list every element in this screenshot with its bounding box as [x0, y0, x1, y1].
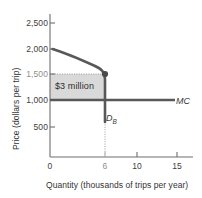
x-tick-label-10: 10 — [127, 161, 147, 171]
x-tick-label-6: 6 — [95, 161, 115, 171]
x-axis-title: Quantity (thousands of trips per year) — [46, 180, 188, 190]
y-tick-label-2500: 2,500 — [8, 18, 48, 28]
x-tick-label-0: 0 — [40, 161, 60, 171]
equilibrium-point-marker — [102, 71, 108, 77]
demand-curve-label: DB — [106, 113, 117, 125]
x-tick-label-15: 15 — [167, 161, 187, 171]
marginal-cost-curve-label: MC — [176, 96, 190, 106]
price-quantity-chart: 2,500 2,000 1,500 1,000 500 0 6 10 15 Pr… — [0, 0, 202, 198]
demand-curve-label-subscript: B — [113, 118, 117, 125]
y-tick-label-2000: 2,000 — [8, 44, 48, 54]
shaded-area-label: $3 million — [55, 81, 94, 91]
y-axis-title: Price (dollars per trip) — [11, 68, 21, 150]
